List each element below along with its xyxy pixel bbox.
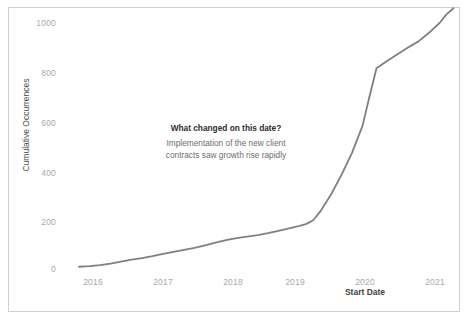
y-tick-label-0: 0: [22, 264, 56, 274]
chart-figure: 1000 800 600 400 200 0 Cumulative Occurr…: [0, 0, 469, 324]
x-tick-label-2016: 2016: [73, 277, 113, 287]
x-axis-title: Start Date: [305, 287, 425, 297]
x-tick-label-2021: 2021: [415, 277, 455, 287]
y-tick-label-200: 200: [22, 217, 56, 227]
y-tick-label-1000: 1000: [22, 18, 56, 28]
chart-annotation: What changed on this date? Implementatio…: [160, 122, 292, 162]
x-tick-label-2020: 2020: [345, 277, 385, 287]
annotation-body: Implementation of the new client contrac…: [160, 137, 292, 162]
y-axis-title: Cumulative Occurrences: [21, 55, 31, 195]
x-tick-label-2017: 2017: [143, 277, 183, 287]
x-tick-label-2019: 2019: [275, 277, 315, 287]
x-tick-label-2018: 2018: [213, 277, 253, 287]
annotation-title: What changed on this date?: [160, 122, 292, 135]
chart-plot-area: [0, 0, 469, 324]
